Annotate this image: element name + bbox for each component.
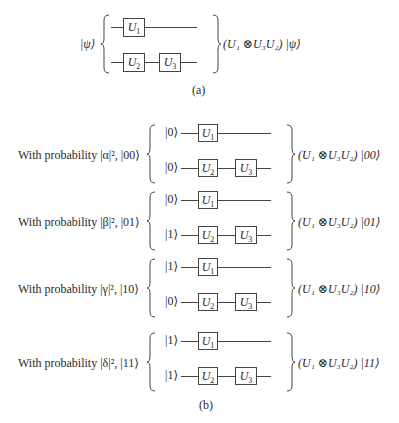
- input-state-psi: |ψ⟩: [80, 37, 95, 51]
- caption-b: (b): [199, 398, 213, 413]
- qubit-wire-top: [181, 133, 271, 134]
- input-ket-bottom: |1⟩: [165, 227, 178, 241]
- qubit-wire-top: [181, 200, 271, 201]
- gate-u2: U2: [198, 293, 218, 311]
- left-brace-icon: [147, 191, 157, 251]
- output-expression: (U₁ ⊗U₃U₂) |00⟩: [298, 148, 381, 162]
- gate-u2: U2: [198, 159, 218, 177]
- right-brace-icon: [286, 332, 296, 392]
- gate-u3: U3: [235, 367, 257, 385]
- qubit-wire-top: [181, 267, 271, 268]
- input-ket-top: |0⟩: [165, 125, 178, 139]
- gate-u2: U2: [198, 226, 218, 244]
- qubit-wire-bottom: [181, 302, 271, 303]
- output-expression-a: (U₁ ⊗U₃U₂) |ψ⟩: [223, 37, 301, 51]
- input-ket-bottom: |0⟩: [165, 160, 178, 174]
- input-ket-bottom: |0⟩: [165, 294, 178, 308]
- output-expression: (U₁ ⊗U₃U₂) |10⟩: [298, 282, 381, 296]
- gate-u1: U1: [198, 258, 218, 276]
- left-brace-icon: [147, 124, 157, 184]
- left-brace-icon: [101, 14, 111, 74]
- gate-u3: U3: [235, 293, 257, 311]
- right-brace-icon: [286, 258, 296, 318]
- right-brace-icon: [286, 191, 296, 251]
- left-brace-icon: [147, 332, 157, 392]
- right-brace-icon: [212, 14, 222, 74]
- gate-u1: U1: [198, 332, 218, 350]
- qubit-wire-bottom: [181, 168, 271, 169]
- qubit-wire-bottom: [181, 235, 271, 236]
- right-brace-icon: [286, 124, 296, 184]
- gate-u3: U3: [235, 226, 257, 244]
- input-ket-top: |1⟩: [165, 333, 178, 347]
- gate-u1: U1: [198, 124, 218, 142]
- input-ket-bottom: |1⟩: [165, 368, 178, 382]
- input-ket-top: |0⟩: [165, 192, 178, 206]
- input-ket-top: |1⟩: [165, 259, 178, 273]
- qubit-wire-top: [181, 341, 271, 342]
- gate-u1: U1: [123, 18, 145, 37]
- probability-label: With probability |γ|², |10⟩: [18, 282, 139, 296]
- probability-label: With probability |δ|², |11⟩: [18, 356, 139, 370]
- gate-u2: U2: [198, 367, 218, 385]
- gate-u3: U3: [235, 159, 257, 177]
- gate-u2: U2: [123, 53, 145, 72]
- output-expression: (U₁ ⊗U₃U₂) |01⟩: [298, 215, 381, 229]
- gate-u1: U1: [198, 191, 218, 209]
- output-expression: (U₁ ⊗U₃U₂) |11⟩: [298, 356, 380, 370]
- probability-label: With probability |α|², |00⟩: [18, 148, 140, 162]
- caption-a: (a): [192, 83, 205, 98]
- gate-u3: U3: [159, 53, 181, 72]
- qubit-wire-bottom: [181, 376, 271, 377]
- left-brace-icon: [147, 258, 157, 318]
- probability-label: With probability |β|², |01⟩: [18, 215, 140, 229]
